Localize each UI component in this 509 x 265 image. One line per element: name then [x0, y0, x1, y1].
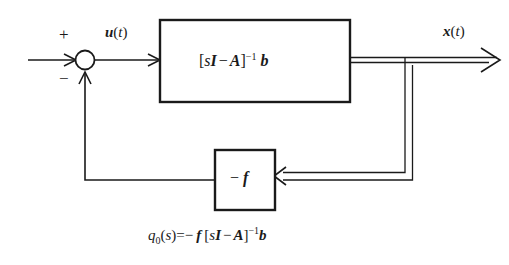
- caption-minus-operator-1: −: [185, 227, 193, 243]
- error-signal-line: [95, 54, 160, 66]
- summing-junction-plus-sign: +: [59, 26, 69, 43]
- summing-junction-circle: [76, 51, 95, 70]
- state-output-symbol: x: [443, 23, 451, 39]
- plant-term-vector-b: b: [256, 52, 268, 69]
- summing-junction-minus-sign: −: [59, 70, 69, 87]
- state-output-line: [350, 48, 500, 72]
- plant-minus-operator: −: [217, 52, 230, 69]
- plant-term-matrix-a: A: [230, 52, 241, 69]
- state-output-paren-close: ): [460, 23, 465, 39]
- error-signal-paren-close: ): [123, 24, 128, 40]
- caption-inverse-exponent: −1: [248, 225, 259, 236]
- caption-minus-operator-2: −: [221, 227, 233, 243]
- reference-input-line: [28, 54, 76, 66]
- caption-term-vector-b: b: [259, 227, 267, 243]
- control-block-diagram: + − u(t) x(t) [sI−A]−1b −f q0(s)=−f[sI−A…: [0, 0, 509, 265]
- caption-term-q: q: [148, 227, 156, 243]
- feedback-minus-operator: −: [230, 169, 239, 186]
- caption-equals-sign: =: [176, 227, 184, 243]
- state-output-label: x(t): [443, 24, 465, 39]
- feedback-term-gain-f: f: [239, 169, 248, 186]
- plant-inverse-exponent: −1: [246, 51, 257, 62]
- error-signal-label: u(t): [105, 25, 128, 40]
- loop-transfer-caption: q0(s)=−f[sI−A]−1b: [148, 226, 267, 246]
- feedback-block-expression: −f: [230, 170, 248, 186]
- plant-block-expression: [sI−A]−1b: [199, 52, 268, 69]
- plant-term-identity: I: [211, 52, 217, 69]
- caption-term-matrix-a: A: [233, 227, 243, 243]
